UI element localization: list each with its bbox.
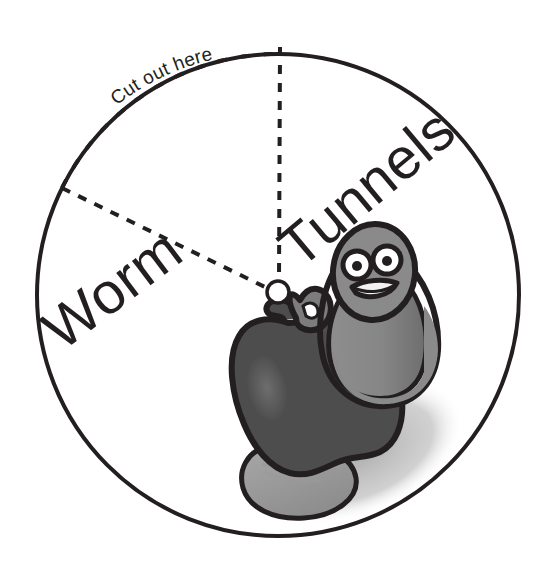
pivot-hole[interactable] [267,281,289,303]
spinner-figure: Worm Tunnels Cut out here [0,0,549,578]
apple-leaf-inner [303,303,318,318]
spinner-canvas: Worm Tunnels Cut out here [0,0,549,578]
worm-pupil-left [352,261,362,271]
worm-pupil-right [382,256,392,266]
